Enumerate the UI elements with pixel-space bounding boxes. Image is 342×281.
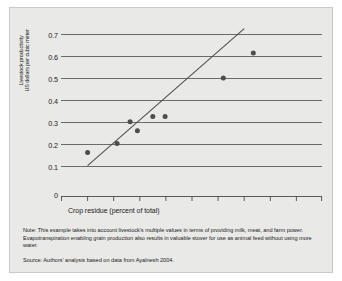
trend-line <box>88 29 245 166</box>
figure-panel: Livestock productivity US dollars per cu… <box>9 7 333 273</box>
data-points <box>85 51 256 156</box>
x-axis-ticks <box>62 197 322 202</box>
data-point-6 <box>163 114 168 119</box>
data-point-2 <box>115 141 120 146</box>
scatter-chart: Livestock productivity US dollars per cu… <box>10 8 334 223</box>
data-point-5 <box>150 114 155 119</box>
data-point-8 <box>251 51 256 56</box>
gridlines <box>61 35 322 167</box>
note-text: Note: This example takes into account li… <box>23 227 323 250</box>
data-point-4 <box>135 128 140 133</box>
footnotes-block: Note: This example takes into account li… <box>23 227 323 265</box>
plot-area <box>10 8 334 223</box>
x-axis-title: Crop residue (percent of total) <box>68 207 159 214</box>
source-text: Source: Authors' analysis based on data … <box>23 257 323 265</box>
data-point-1 <box>85 150 90 155</box>
data-point-7 <box>221 76 226 81</box>
data-point-3 <box>128 119 133 124</box>
